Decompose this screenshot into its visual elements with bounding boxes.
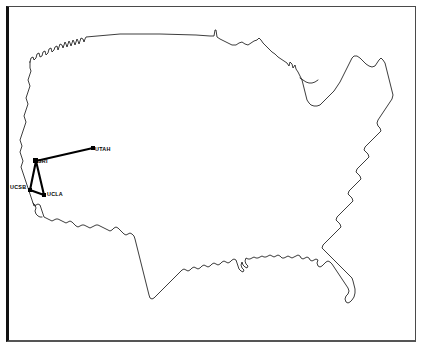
network-links — [30, 148, 93, 195]
node-label-ucsb: UCSB — [10, 184, 26, 190]
node-marker-ucsb[interactable] — [28, 188, 32, 192]
baja-inlet-path — [33, 203, 42, 217]
link-ucsb-ucla — [30, 190, 44, 195]
southern-california-coast-detail — [33, 203, 42, 217]
us-coastline-outline — [20, 30, 393, 303]
link-sri-ucla — [36, 161, 44, 195]
node-marker-ucla[interactable] — [42, 193, 46, 197]
figure-root: SRI UTAH UCSB UCLA — [0, 0, 422, 352]
node-label-sri: SRI — [38, 158, 48, 164]
us-outline-path — [20, 30, 393, 303]
network-node-labels: SRI UTAH UCSB UCLA — [10, 146, 111, 197]
link-sri-ucsb — [30, 161, 36, 190]
us-map-figure: SRI UTAH UCSB UCLA — [0, 0, 422, 352]
node-label-ucla: UCLA — [47, 191, 63, 197]
node-label-utah: UTAH — [95, 146, 111, 152]
